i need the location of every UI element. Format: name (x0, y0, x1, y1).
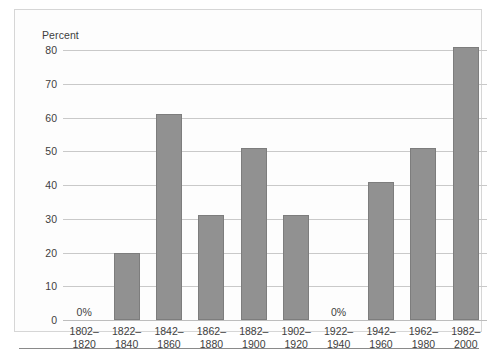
x-axis-tick-label: 1882–1900 (233, 325, 275, 350)
bar (368, 182, 394, 320)
bar-value-label: 0% (77, 306, 92, 318)
bar-slot (275, 50, 317, 320)
y-axis-tick-label: 10 (45, 280, 57, 292)
bar (241, 148, 267, 320)
bar-slot (445, 50, 487, 320)
chart-plot-frame: Percent 01020304050607080 0%0% 1802–1820… (14, 9, 482, 332)
bar-slot: 0% (317, 50, 359, 320)
bar-slot (190, 50, 232, 320)
bar (198, 215, 224, 320)
bar (453, 47, 479, 320)
x-axis-tick-label: 1922–1940 (317, 325, 359, 350)
bar (283, 215, 309, 320)
x-axis-tick-label: 1862–1880 (190, 325, 232, 350)
y-axis-tick-label: 0 (51, 314, 57, 326)
y-axis-tick-label: 30 (45, 213, 57, 225)
bar-slot: 0% (63, 50, 105, 320)
x-axis-tick-label: 1902–1920 (275, 325, 317, 350)
x-axis-tick-label: 1802–1820 (63, 325, 105, 350)
chart-figure: Percent 01020304050607080 0%0% 1802–1820… (0, 0, 497, 360)
bar (410, 148, 436, 320)
bar-slot (233, 50, 275, 320)
bar-series: 0%0% (63, 50, 487, 320)
y-axis-tick-label: 80 (45, 44, 57, 56)
bar-slot (105, 50, 147, 320)
y-axis-title: Percent (42, 29, 79, 41)
bottom-rule (19, 348, 479, 349)
bar-slot (148, 50, 190, 320)
y-axis-tick-label: 20 (45, 247, 57, 259)
x-axis-tick-label: 1842–1860 (148, 325, 190, 350)
x-axis-tick-label: 1982–2000 (445, 325, 487, 350)
y-axis-tick-label: 40 (45, 179, 57, 191)
bar-slot (360, 50, 402, 320)
chart-plot-area: 01020304050607080 0%0% 1802–18201822–184… (63, 50, 487, 320)
x-axis-tick-label: 1962–1980 (402, 325, 444, 350)
x-axis-tick-label: 1822–1840 (105, 325, 147, 350)
bar (114, 253, 140, 321)
bar-value-label: 0% (331, 306, 346, 318)
gridline (63, 320, 487, 321)
y-axis-tick-label: 70 (45, 78, 57, 90)
bar-slot (402, 50, 444, 320)
y-axis-tick-label: 50 (45, 145, 57, 157)
bar (156, 114, 182, 320)
y-axis-tick-label: 60 (45, 112, 57, 124)
x-axis-tick-label: 1942–1960 (360, 325, 402, 350)
